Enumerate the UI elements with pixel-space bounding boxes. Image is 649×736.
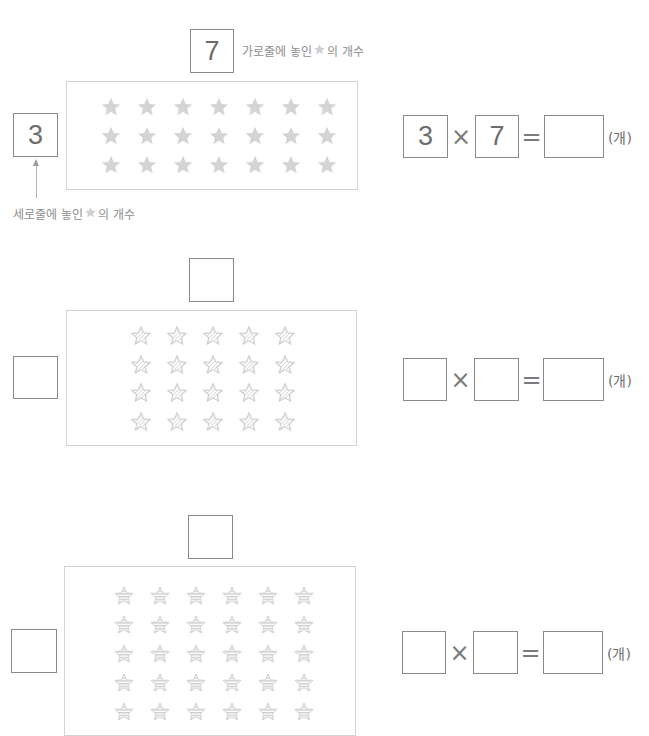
column-count-box[interactable] (189, 258, 234, 302)
star-icon (106, 581, 142, 610)
star-icon (214, 610, 250, 639)
result-box[interactable] (543, 358, 604, 401)
star-icon (165, 92, 201, 121)
star-icon (142, 697, 178, 726)
star-icon (286, 610, 322, 639)
star-icon (267, 379, 303, 408)
star-icon (106, 610, 142, 639)
star-panel (66, 310, 357, 446)
star-icon (273, 92, 309, 121)
star-icon (142, 581, 178, 610)
factor-b-box[interactable] (474, 358, 519, 401)
label-text: 세로줄에 놓인 (13, 205, 83, 222)
star-icon (178, 581, 214, 610)
star-icon (214, 668, 250, 697)
star-icon (237, 92, 273, 121)
star-icon (231, 408, 267, 437)
star-icon (286, 581, 322, 610)
star-icon (201, 121, 237, 150)
star-icon (309, 150, 345, 179)
star-icon (214, 697, 250, 726)
star-icon (250, 581, 286, 610)
star-icon (286, 668, 322, 697)
star-icon (195, 379, 231, 408)
star-icon (195, 351, 231, 380)
row-count-box[interactable] (13, 356, 58, 399)
factor-b-box[interactable]: 7 (475, 115, 519, 158)
star-icon (309, 92, 345, 121)
factor-a-box[interactable] (403, 358, 447, 401)
label-text: 가로줄에 놓인 (242, 42, 312, 59)
star-icon (159, 408, 195, 437)
star-icon (84, 206, 97, 222)
star-icon (142, 668, 178, 697)
arrow-line (36, 165, 37, 198)
star-icon (93, 150, 129, 179)
star-icon (93, 92, 129, 121)
star-grid (123, 322, 303, 436)
star-icon (286, 639, 322, 668)
star-icon (195, 322, 231, 351)
star-icon (159, 322, 195, 351)
equals-sign: = (519, 358, 544, 401)
star-icon (237, 150, 273, 179)
star-icon (123, 379, 159, 408)
star-icon (214, 639, 250, 668)
unit-label: (개) (608, 115, 632, 158)
star-icon (231, 379, 267, 408)
star-icon (267, 408, 303, 437)
column-count-label: 가로줄에 놓인 의 개수 (242, 42, 364, 59)
star-grid (93, 92, 345, 179)
star-icon (286, 697, 322, 726)
star-icon (129, 92, 165, 121)
star-icon (106, 668, 142, 697)
star-icon (273, 150, 309, 179)
star-icon (250, 668, 286, 697)
star-icon (195, 408, 231, 437)
star-icon (178, 668, 214, 697)
star-icon (267, 351, 303, 380)
star-icon (178, 639, 214, 668)
star-grid (106, 581, 322, 726)
column-count-box[interactable] (188, 515, 233, 559)
result-box[interactable] (544, 115, 604, 158)
label-text: 의 개수 (327, 42, 364, 59)
multiply-sign: × (448, 115, 474, 158)
equals-sign: = (519, 115, 544, 158)
star-icon (93, 121, 129, 150)
star-icon (201, 150, 237, 179)
row-count-label: 세로줄에 놓인 의 개수 (13, 205, 135, 222)
star-icon (273, 121, 309, 150)
label-text: 의 개수 (98, 205, 135, 222)
equals-sign: = (518, 631, 543, 674)
star-icon (159, 351, 195, 380)
star-icon (123, 351, 159, 380)
factor-a-box[interactable]: 3 (403, 115, 448, 158)
star-icon (142, 610, 178, 639)
star-icon (165, 150, 201, 179)
star-icon (159, 379, 195, 408)
factor-a-box[interactable] (402, 631, 446, 674)
star-icon (178, 697, 214, 726)
star-icon (106, 639, 142, 668)
star-icon (250, 697, 286, 726)
row-count-box[interactable]: 3 (13, 113, 58, 157)
star-icon (267, 322, 303, 351)
star-icon (106, 697, 142, 726)
row-count-box[interactable] (11, 629, 57, 673)
star-icon (201, 92, 237, 121)
star-panel (64, 566, 356, 736)
star-icon (129, 121, 165, 150)
multiply-sign: × (446, 631, 473, 674)
column-count-box[interactable]: 7 (190, 29, 234, 73)
star-icon (250, 610, 286, 639)
star-icon (237, 121, 273, 150)
star-icon (123, 322, 159, 351)
star-icon (231, 322, 267, 351)
factor-b-box[interactable] (473, 631, 518, 674)
star-icon (313, 43, 326, 59)
result-box[interactable] (543, 631, 603, 674)
star-icon (165, 121, 201, 150)
star-icon (178, 610, 214, 639)
star-icon (250, 639, 286, 668)
